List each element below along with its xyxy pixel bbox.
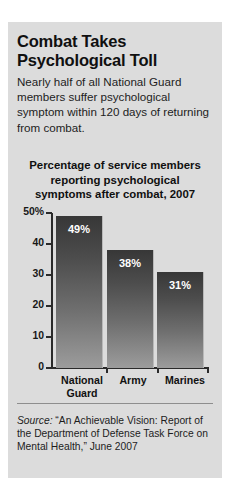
source-label: Source: [17,415,53,426]
x-axis-tick [106,369,108,373]
y-axis-label-0: 0 [4,361,44,372]
bar-chart: 50% 40 30 20 10 0 49% 38% 31% National G… [8,208,222,390]
source-note: Source: “An Achievable Vision: Report of… [17,414,215,454]
headline-line-2: Psychological Toll [17,51,213,70]
x-axis-tick [157,369,159,373]
y-axis-label-10: 10 [4,330,44,341]
bar-value-army: 38% [107,257,153,269]
chart-title-line-1: Percentage of service members [15,158,215,173]
chart-title-line-3: symptoms after combat, 2007 [15,187,215,202]
y-axis-label-50: 50% [4,206,44,217]
bar-value-marines: 31% [157,279,203,291]
x-axis-label-national-guard: National Guard [52,374,112,399]
x-axis-label-army: Army [106,374,160,387]
y-axis-label-30: 30 [4,268,44,279]
infographic-panel: Combat Takes Psychological Toll Nearly h… [8,22,222,478]
source-divider [17,403,213,404]
bar-value-national-guard: 49% [56,223,102,235]
chart-title-line-2: reporting psychological [15,173,215,188]
x-axis-tick [207,369,209,373]
chart-title: Percentage of service members reporting … [15,158,215,202]
y-axis-label-20: 20 [4,299,44,310]
bar-marines: 31% [157,272,204,368]
x-axis-label-national-guard-line-2: Guard [52,387,112,400]
x-axis-label-marines-line-1: Marines [156,374,214,387]
x-axis-label-army-line-1: Army [106,374,160,387]
headline-line-1: Combat Takes [17,32,126,50]
plot-area: 49% 38% 31% [52,213,208,368]
x-axis-label-national-guard-line-1: National [52,374,112,387]
bar-national-guard: 49% [56,216,103,368]
page-title: Combat Takes Psychological Toll [17,32,213,70]
intro-paragraph: Nearly half of all National Guard member… [17,74,215,135]
y-axis-label-40: 40 [4,237,44,248]
x-axis-label-marines: Marines [156,374,214,387]
bar-army: 38% [107,250,154,368]
